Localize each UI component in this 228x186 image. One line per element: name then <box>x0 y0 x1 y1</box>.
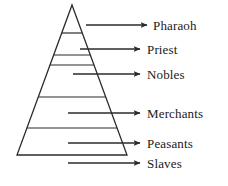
tier-label-nobles: Nobles <box>147 68 185 81</box>
pyramid-body <box>17 5 127 155</box>
pyramid-outline <box>17 5 127 155</box>
tier-label-peasants: Peasants <box>147 137 193 150</box>
tier-label-pharaoh: Pharaoh <box>153 19 197 32</box>
tier-label-slaves: Slaves <box>147 157 182 170</box>
tier-label-priest: Priest <box>147 43 178 56</box>
social-pyramid-diagram: PharaohPriestNoblesMerchantsPeasantsSlav… <box>0 0 228 186</box>
tier-label-merchants: Merchants <box>147 107 203 120</box>
